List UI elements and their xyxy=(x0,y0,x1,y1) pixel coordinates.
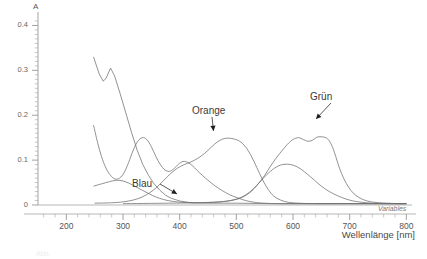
y-tick-label: 0.1 xyxy=(8,155,28,164)
figure-caption: Abb. xyxy=(36,250,50,257)
x-tick-label: 200 xyxy=(51,221,81,231)
curve-mid-band-485 xyxy=(95,138,407,204)
y-axis-ticks xyxy=(32,21,38,205)
series-label-blau: Blau xyxy=(132,178,152,189)
y-tick-label: 0.3 xyxy=(8,65,28,74)
y-tick-label: 0.4 xyxy=(8,20,28,29)
x-tick-label: 400 xyxy=(165,221,195,231)
x-tick-label: 500 xyxy=(221,221,251,231)
y-tick-label: 0 xyxy=(8,200,28,209)
y-axis-title: A xyxy=(33,2,38,11)
arrow-orange-head xyxy=(210,126,215,131)
spectra-figure: A 00.10.20.30.4 200300400500600700800 We… xyxy=(0,0,427,259)
x-tick-label: 600 xyxy=(278,221,308,231)
annotation-arrows xyxy=(160,103,331,194)
variables-label: Variables xyxy=(378,205,406,212)
series-label-gruen: Grün xyxy=(310,91,332,102)
x-tick-label: 300 xyxy=(108,221,138,231)
x-axis-title: Wellenlänge [nm] xyxy=(342,229,415,240)
x-axis-ticks xyxy=(44,214,407,220)
series-label-orange: Orange xyxy=(192,105,225,116)
y-tick-label: 0.2 xyxy=(8,110,28,119)
